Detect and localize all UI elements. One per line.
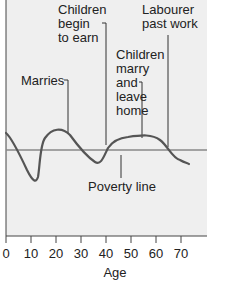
annotation-children-earn-1: Children	[58, 3, 106, 17]
annotation-children-earn-2: begin	[58, 17, 90, 31]
x-tick-label: 50	[124, 246, 138, 261]
annotation-marries: Marries	[21, 74, 64, 88]
x-axis-title: Age	[103, 265, 126, 280]
x-tick-label: 70	[174, 246, 188, 261]
annotation-children-marry-3: and	[116, 76, 138, 90]
annotation-poverty-line: Poverty line	[88, 180, 156, 194]
annotation-children-marry-4: leave	[116, 90, 147, 104]
annotation-labourer-2: past work	[142, 17, 198, 31]
x-tick-label: 0	[2, 246, 9, 261]
annotation-labourer-1: Labourer	[142, 3, 194, 17]
x-tick-label: 20	[49, 246, 63, 261]
life-cycle-curve	[6, 130, 189, 181]
x-tick-label: 60	[149, 246, 163, 261]
annotation-children-marry-1: Children	[116, 48, 164, 62]
x-axis-ticks	[6, 236, 181, 243]
x-tick-label: 40	[99, 246, 113, 261]
x-tick-label: 10	[24, 246, 38, 261]
x-tick-label: 30	[74, 246, 88, 261]
annotation-children-earn-3: to earn	[58, 31, 98, 45]
annotation-children-marry-2: marry	[116, 62, 149, 76]
annotation-children-marry-5: home	[116, 104, 149, 118]
